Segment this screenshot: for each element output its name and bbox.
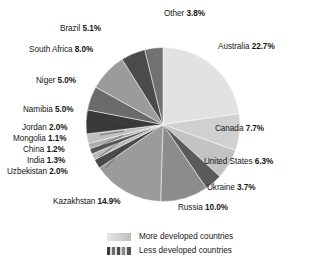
slice-label-united-states: United States 6.3% [204,157,273,166]
slice-label-other: Other 3.8% [164,9,205,18]
slice-label-jordan: Jordan 2.0% [22,123,67,132]
legend-label-less-developed: Less developed countries [139,246,232,255]
chart-legend: More developed countries Less developed … [107,231,287,259]
slice-label-kazakhstan: Kazakhstan 14.9% [53,197,121,206]
legend-item-less-developed: Less developed countries [107,245,287,256]
slice-label-namibia: Namibia 5.0% [23,105,73,114]
slice-label-brazil: Brazil 5.1% [60,24,101,33]
slice-label-mongolia: Mongolia 1.1% [13,134,67,143]
legend-swatch-more-developed [107,233,131,241]
slice-label-india: India 1.3% [27,156,65,165]
slice-label-niger: Niger 5.0% [36,76,76,85]
legend-item-more-developed: More developed countries [107,231,287,242]
pie-chart-figure: Other 3.8% Brazil 5.1% South Africa 8.0%… [0,0,326,275]
pie-slice-australia[interactable] [163,48,239,125]
slice-label-canada: Canada 7.7% [215,124,264,133]
slice-label-russia: Russia 10.0% [178,203,228,212]
slice-label-ukraine: Ukraine 3.7% [207,183,256,192]
slice-label-australia: Australia 22.7% [218,42,275,51]
slice-label-china: China 1.2% [23,145,65,154]
legend-label-more-developed: More developed countries [139,232,233,241]
slice-label-uzbekistan: Uzbekistan 2.0% [7,167,68,176]
slice-label-south-africa: South Africa 8.0% [29,45,93,54]
legend-swatch-less-developed [107,247,131,255]
